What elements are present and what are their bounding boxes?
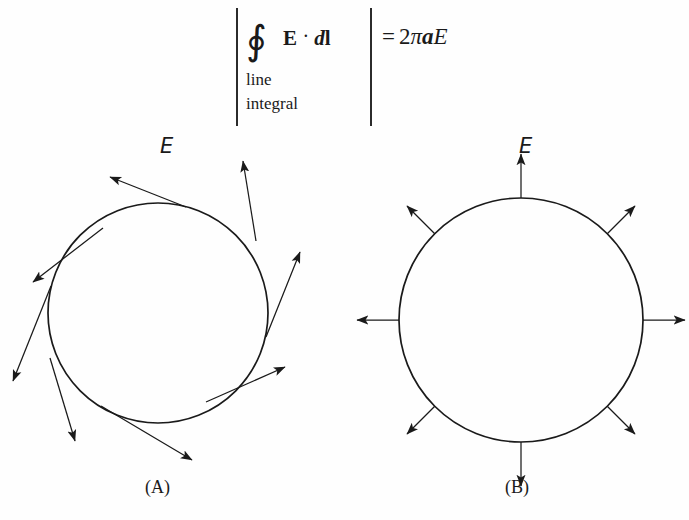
field-vector-symbol: E	[283, 26, 298, 51]
equals-sign: =	[382, 24, 395, 49]
panel-b-radial-arrows	[357, 154, 685, 486]
radial-arrow-lower-right	[607, 406, 635, 434]
tangent-arrow-6	[206, 367, 285, 402]
radius-symbol: a	[422, 24, 434, 49]
formula-block: ∮ E · dl =2πaE line integral	[236, 8, 506, 126]
tangent-arrow-5	[101, 406, 192, 460]
annotation-line-1: line	[246, 68, 298, 92]
field-magnitude-symbol: E	[434, 24, 448, 49]
radial-arrow-upper-right	[607, 206, 635, 234]
tangent-arrow-4	[50, 358, 75, 441]
figure-canvas: ∮ E · dl =2πaE line integral	[0, 0, 689, 520]
radial-arrow-lower-left	[407, 406, 435, 434]
radial-arrow-upper-left	[407, 206, 435, 234]
panel-b-diagram	[345, 130, 689, 520]
tangent-arrow-8	[243, 161, 256, 241]
formula-right-hand-side: =2πaE	[382, 24, 448, 50]
panel-b-label: (B)	[505, 477, 529, 498]
panel-b-circle	[399, 198, 643, 442]
panel-a-svg	[0, 130, 345, 520]
panel-a-tangent-arrows	[13, 161, 300, 460]
dot-product-icon: ·	[303, 25, 310, 48]
tangent-arrow-1	[110, 177, 186, 207]
path-differential: dl	[314, 26, 330, 51]
path-element-l: l	[325, 26, 331, 50]
line-integral-annotation: line integral	[246, 68, 298, 116]
coefficient-two: 2	[399, 24, 411, 49]
line-integral-expression: ∮ E · dl	[246, 10, 331, 66]
panel-b-field-label: E	[519, 134, 532, 158]
contour-integral-icon: ∮	[246, 20, 267, 60]
panel-a-diagram	[0, 130, 345, 520]
panel-a-field-label: E	[160, 134, 173, 158]
panel-b-svg	[345, 130, 689, 520]
differential-d: d	[314, 26, 325, 50]
pi-symbol: π	[410, 24, 422, 49]
formula-rule-middle	[370, 8, 372, 126]
panel-a-circle	[48, 203, 268, 423]
tangent-arrow-3	[13, 286, 51, 381]
tangent-arrow-2	[33, 228, 103, 282]
panel-a-label: (A)	[145, 477, 170, 498]
formula-rule-left	[236, 8, 238, 126]
annotation-line-2: integral	[246, 92, 298, 116]
tangent-arrow-7	[266, 252, 300, 337]
